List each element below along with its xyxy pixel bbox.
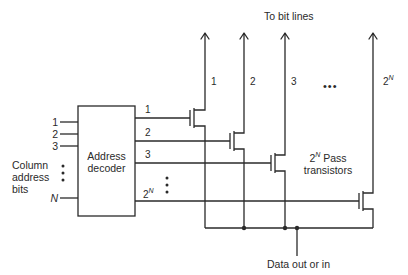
output-label-1: 1 [145,104,151,116]
ellipsis-dot [166,184,169,187]
to-bit-lines-label: To bit lines [264,10,314,22]
pass-line-2: transistors [298,164,358,176]
bit-2n-exp: N [389,74,394,81]
horizontal-ellipsis: ••• [323,80,338,92]
ellipsis-dot [166,191,169,194]
bit-line-label-3: 3 [291,76,297,88]
group-line-2: address [12,171,49,183]
input-label-2: 2 [44,128,58,140]
pass-transistor-2n [359,33,373,228]
output-label-3: 3 [145,149,151,161]
bit-line-label-2: 2 [250,76,256,88]
column-address-bits-label: Column address bits [12,159,49,195]
circuit-diagram [0,0,408,275]
pass-transistor-3 [271,33,285,228]
pass-line-1: 2N Pass [298,152,358,164]
ellipsis-dot [62,172,65,175]
ellipsis-dot [166,177,169,180]
output-label-2: 2 [145,127,151,139]
bit-line-label-2n: 2N [383,76,394,88]
group-line-3: bits [12,183,49,195]
group-line-1: Column [12,159,49,171]
ellipsis-dot [62,179,65,182]
pass-transistor-1 [190,33,205,228]
input-label-3: 3 [44,140,58,152]
pass-transistor-2 [230,33,244,228]
bit-line-label-1: 1 [211,76,217,88]
pass-transistors-label: 2N Pass transistors [298,152,358,176]
junction-dot [242,226,246,230]
address-decoder-label: Address decoder [78,150,135,174]
input-label-1: 1 [44,116,58,128]
decoder-line-1: Address [78,150,135,162]
junction-dot [283,226,287,230]
data-out-label: Data out or in [267,258,330,270]
ellipsis-dot [62,165,65,168]
decoder-line-2: decoder [78,162,135,174]
output-label-2n: 2N [143,189,154,201]
pass-rest: Pass [320,152,346,164]
junction-dot [295,226,299,230]
output-2n-exp: N [149,187,154,194]
